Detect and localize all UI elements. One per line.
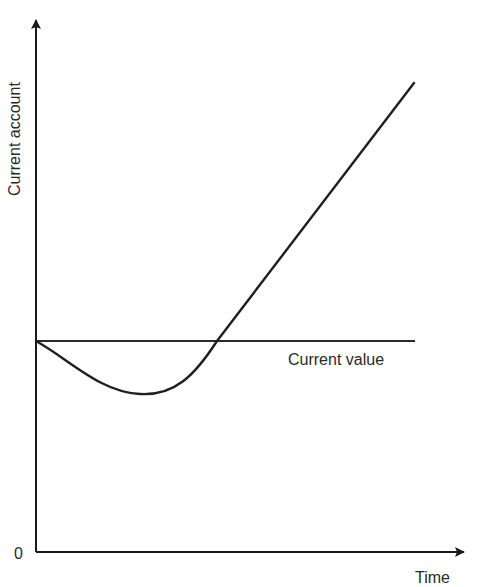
y-axis-label: Current account [6, 82, 23, 196]
current-value-label: Current value [288, 351, 384, 368]
origin-label: 0 [14, 545, 23, 562]
j-curve-diagram: Current account Time 0 Current value [0, 0, 477, 587]
j-curve-line [36, 83, 414, 394]
x-axis-label: Time [415, 569, 450, 586]
